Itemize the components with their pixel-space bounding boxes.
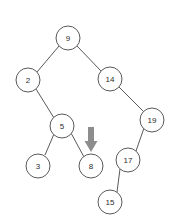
tree-node[interactable]: 14 — [98, 67, 122, 91]
tree-edge — [136, 128, 144, 151]
node-label: 8 — [89, 162, 94, 171]
tree-node[interactable]: 9 — [56, 26, 80, 50]
tree-edge — [119, 87, 144, 112]
tree-node[interactable]: 2 — [16, 68, 40, 92]
binary-search-tree-diagram: 9214519381715 — [0, 0, 184, 222]
tree-node[interactable]: 15 — [98, 190, 122, 214]
tree-canvas: 9214519381715 — [0, 0, 184, 222]
tree-edge — [117, 169, 120, 192]
pointer-arrow-icon — [85, 127, 98, 152]
node-label: 19 — [148, 116, 157, 125]
node-label: 15 — [106, 198, 115, 207]
tree-edge — [77, 46, 101, 71]
node-label: 9 — [66, 34, 71, 43]
tree-node[interactable]: 5 — [50, 114, 74, 138]
tree-node[interactable]: 17 — [116, 148, 140, 172]
tree-node[interactable]: 8 — [79, 154, 103, 178]
node-label: 17 — [124, 156, 133, 165]
tree-edge — [71, 133, 84, 157]
node-label: 3 — [36, 162, 41, 171]
tree-node[interactable]: 19 — [140, 108, 164, 132]
node-label: 2 — [26, 76, 31, 85]
node-group: 9214519381715 — [16, 26, 164, 214]
down-arrow-icon — [85, 127, 98, 152]
tree-node[interactable]: 3 — [26, 154, 50, 178]
node-label: 14 — [106, 75, 115, 84]
tree-edge — [45, 134, 54, 155]
tree-edge — [36, 89, 54, 118]
tree-edge — [37, 46, 59, 72]
node-label: 5 — [60, 122, 65, 131]
